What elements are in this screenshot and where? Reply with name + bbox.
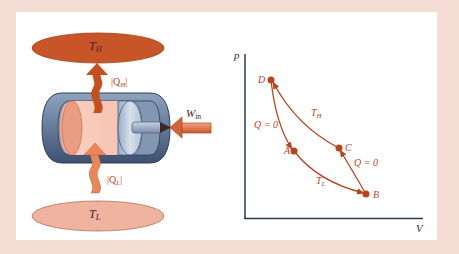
hot-reservoir-label: TH [89,40,102,55]
figure-canvas: TH TL |QH| |QL| Win p V D C A B Q = 0 Q … [0,0,459,254]
point-d-label: D [258,75,265,85]
cold-reservoir-label: TL [89,208,100,223]
segment-cd-label: TH [311,108,322,120]
point-d [268,77,275,84]
heat-out-label: |QH| [111,77,127,89]
curve-c-to-d [273,82,339,148]
work-in-label: Win [186,108,201,121]
figure-graphics [0,0,459,254]
point-a-label: A [284,146,290,156]
point-b-label: B [373,190,379,200]
point-b [363,191,370,198]
y-axis-label: p [234,50,240,61]
heat-in-label: |QL| [107,175,122,187]
cylinder [42,93,171,163]
point-a [291,148,298,155]
point-c-label: C [345,143,352,153]
point-c [336,145,343,152]
segment-ab-label: TL [316,176,325,188]
curve-d-to-a [271,80,292,149]
segment-da-label: Q = 0 [254,120,278,130]
segment-bc-label: Q = 0 [354,158,378,168]
x-axis-label: V [416,223,423,234]
